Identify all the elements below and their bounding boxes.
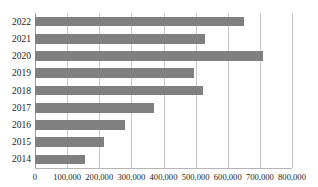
y-axis-label-2019: 2019 bbox=[0, 68, 31, 78]
x-axis-label-400000: 400,000 bbox=[150, 172, 178, 183]
y-axis-label-2017: 2017 bbox=[0, 103, 31, 113]
y-axis-label-2020: 2020 bbox=[0, 51, 31, 61]
plot-area bbox=[35, 13, 292, 168]
x-axis-label-200000: 200,000 bbox=[85, 172, 113, 183]
x-axis-label-800000: 800,000 bbox=[278, 172, 306, 183]
bar-row bbox=[35, 13, 292, 30]
bar-row bbox=[35, 47, 292, 64]
bar-2018 bbox=[35, 86, 203, 96]
x-axis-label-100000: 100,000 bbox=[53, 172, 81, 183]
bar-row bbox=[35, 65, 292, 82]
bar-row bbox=[35, 99, 292, 116]
gridline-800000 bbox=[292, 13, 293, 168]
bar-row bbox=[35, 116, 292, 133]
x-axis-baseline bbox=[35, 168, 292, 169]
y-axis-label-2022: 2022 bbox=[0, 17, 31, 27]
y-axis-label-2018: 2018 bbox=[0, 86, 31, 96]
bar-2014 bbox=[35, 155, 85, 165]
bar-row bbox=[35, 82, 292, 99]
y-axis-label-2021: 2021 bbox=[0, 34, 31, 44]
bar-chart: — — — — — • — • — — — 202220212020201920… bbox=[0, 0, 318, 187]
x-axis-labels: 0100,000200,000300,000400,000500,000600,… bbox=[0, 172, 318, 186]
x-axis-label-300000: 300,000 bbox=[117, 172, 145, 183]
clipped-header-text: — — — — — • — • — — — bbox=[0, 0, 318, 4]
bar-2021 bbox=[35, 34, 205, 44]
bar-2017 bbox=[35, 103, 154, 113]
bar-2015 bbox=[35, 137, 104, 147]
y-axis-label-2014: 2014 bbox=[0, 154, 31, 164]
bar-2019 bbox=[35, 68, 194, 78]
x-axis-label-0: 0 bbox=[33, 172, 37, 183]
bar-2022 bbox=[35, 17, 244, 27]
x-axis-label-500000: 500,000 bbox=[182, 172, 210, 183]
bar-row bbox=[35, 30, 292, 47]
bar-2016 bbox=[35, 120, 125, 130]
y-axis-label-2016: 2016 bbox=[0, 120, 31, 130]
x-axis-label-700000: 700,000 bbox=[246, 172, 274, 183]
y-axis-label-2015: 2015 bbox=[0, 137, 31, 147]
x-axis-label-600000: 600,000 bbox=[214, 172, 242, 183]
bar-row bbox=[35, 134, 292, 151]
bar-2020 bbox=[35, 51, 263, 61]
bar-row bbox=[35, 151, 292, 168]
